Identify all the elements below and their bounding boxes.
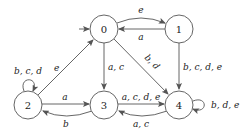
state-4: 4 xyxy=(165,91,193,119)
state-3-label: 3 xyxy=(101,100,107,111)
edge-0-1 xyxy=(117,18,165,23)
state-1: 1 xyxy=(165,15,193,43)
edge-label-0-1: e xyxy=(138,5,143,15)
edge-label-2-2: b, c, d xyxy=(14,66,42,76)
edge-label-0-3: a, c xyxy=(108,62,124,72)
edge-3-2 xyxy=(43,111,92,116)
state-2: 2 xyxy=(14,91,42,119)
edge-2-2 xyxy=(23,80,34,91)
edge-label-2-0: e xyxy=(54,63,59,73)
edge-label-4-4: b, d, e xyxy=(211,100,239,110)
state-0: 0 xyxy=(90,15,118,43)
edge-label-3-4: a, c, d, e xyxy=(122,92,161,102)
state-1-label: 1 xyxy=(176,24,182,35)
state-2-label: 2 xyxy=(25,100,31,111)
state-3: 3 xyxy=(90,91,118,119)
edge-4-4 xyxy=(193,100,204,110)
edge-2-0 xyxy=(38,40,93,95)
edge-label-2-3: a xyxy=(62,92,67,102)
state-4-label: 4 xyxy=(176,100,182,111)
edge-label-1-0: a xyxy=(138,32,143,42)
edge-label-4-3: a, c xyxy=(133,119,149,129)
state-0-label: 0 xyxy=(101,24,107,35)
edge-label-0-4: b, d xyxy=(143,52,162,71)
edge-label-1-4: b, c, d, e xyxy=(183,62,222,72)
automaton-diagram: e a a, c b, d b, c, d, e e b, c, d a b a… xyxy=(0,0,251,133)
edge-label-3-2: b xyxy=(63,119,69,129)
edge-4-3 xyxy=(119,111,167,116)
